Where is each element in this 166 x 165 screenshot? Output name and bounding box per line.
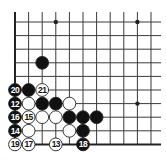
white-stone-icon (36, 111, 49, 124)
move-number-label: 18 (79, 139, 88, 149)
black-stone (77, 111, 90, 124)
move-number-label: 12 (11, 99, 20, 109)
black-stone: 12 (9, 97, 22, 110)
white-stone: 21 (36, 84, 49, 97)
black-stone-icon (90, 111, 103, 124)
white-stone (63, 97, 76, 110)
move-number-label: 20 (11, 85, 20, 95)
white-stone-icon (22, 124, 35, 137)
black-stone-icon (36, 97, 49, 110)
black-stone (36, 56, 49, 69)
star-point-icon (135, 101, 139, 105)
black-stone-icon (22, 84, 35, 97)
white-stone-icon (63, 97, 76, 110)
move-number-label: 15 (24, 112, 33, 122)
black-stone-icon (63, 111, 76, 124)
star-point-icon (54, 20, 58, 24)
black-stone: 20 (9, 84, 22, 97)
white-stone: 15 (22, 111, 35, 124)
white-stone: 17 (22, 138, 35, 151)
move-number-label: 19 (11, 139, 20, 149)
black-stone-icon (77, 111, 90, 124)
white-stone-icon (49, 111, 62, 124)
black-stone: 14 (9, 124, 22, 137)
move-number-label: 16 (11, 112, 20, 122)
black-stone (22, 84, 35, 97)
white-stone-icon (22, 97, 35, 110)
black-stone (49, 97, 62, 110)
white-stone-icon (63, 124, 76, 137)
move-number-label: 17 (24, 139, 33, 149)
move-number-label: 14 (11, 126, 20, 136)
white-stone (63, 124, 76, 137)
white-stone (22, 124, 35, 137)
white-stone (36, 111, 49, 124)
black-stone-icon (49, 97, 62, 110)
go-board: 20211216151419171318 (0, 0, 166, 165)
white-stone (49, 111, 62, 124)
black-stone-icon (77, 124, 90, 137)
move-number-label: 13 (52, 139, 61, 149)
white-stone: 13 (49, 138, 62, 151)
white-stone (22, 97, 35, 110)
star-point-icon (135, 20, 139, 24)
black-stone (36, 97, 49, 110)
black-stone: 16 (9, 111, 22, 124)
black-stone: 18 (77, 138, 90, 151)
black-stone-icon (36, 56, 49, 69)
white-stone: 19 (9, 138, 22, 151)
black-stone (63, 111, 76, 124)
move-number-label: 21 (38, 85, 47, 95)
black-stone (77, 124, 90, 137)
board-grid (15, 12, 161, 144)
black-stone (90, 111, 103, 124)
